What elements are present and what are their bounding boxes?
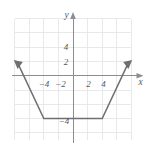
x-axis-label: x — [137, 77, 143, 87]
x-tick-label-neg2: −2 — [55, 79, 66, 89]
y-tick-label-neg4: −4 — [59, 116, 70, 126]
graph-figure: −4 −2 2 4 4 2 −4 y x — [0, 0, 151, 155]
y-tick-label-pos2: 2 — [64, 57, 69, 67]
y-axis-arrowhead — [70, 12, 76, 19]
x-tick-label-neg4: −4 — [39, 79, 50, 89]
y-axis-label: y — [63, 10, 69, 20]
x-tick-label-pos4: 4 — [101, 79, 106, 89]
coordinate-plane-svg: −4 −2 2 4 4 2 −4 y x — [0, 0, 151, 155]
x-tick-label-pos2: 2 — [86, 79, 91, 89]
y-tick-label-pos4: 4 — [64, 42, 69, 52]
